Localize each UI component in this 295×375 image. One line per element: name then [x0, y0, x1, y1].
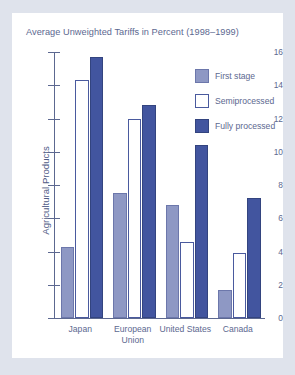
- bar: [247, 198, 261, 318]
- chart-legend: First stageSemiprocessedFully processed: [195, 69, 281, 144]
- bar: [233, 253, 247, 318]
- bar: [195, 145, 209, 318]
- bar: [61, 247, 75, 318]
- y-axis-label: Agricultural Products: [40, 111, 51, 271]
- x-axis-category-label: Canada: [208, 324, 269, 335]
- x-axis-category-label: EuropeanUnion: [103, 324, 164, 345]
- bar: [113, 193, 127, 318]
- x-axis-line: [54, 318, 265, 319]
- x-axis-category-label-line: Union: [103, 335, 164, 346]
- x-axis-category-label-line: United States: [155, 324, 216, 335]
- legend-label: Fully processed: [215, 121, 275, 131]
- bar: [128, 119, 142, 319]
- legend-label: First stage: [215, 71, 255, 81]
- bar: [166, 205, 180, 318]
- chart-plot: Agricultural Products 0246810121416 Japa…: [12, 13, 283, 358]
- bar: [142, 105, 156, 318]
- bar: [90, 57, 104, 318]
- y-axis-tick-inner: [55, 318, 60, 319]
- figure-card: Average Unweighted Tariffs in Percent (1…: [12, 13, 283, 358]
- x-axis-category-label-line: Canada: [208, 324, 269, 335]
- legend-swatch-semi: [195, 94, 209, 108]
- x-axis-category-label-line: Japan: [50, 324, 111, 335]
- legend-item: Semiprocessed: [195, 94, 281, 119]
- x-axis-category-label: United States: [155, 324, 216, 335]
- x-axis-category-label-line: European: [103, 324, 164, 335]
- legend-label: Semiprocessed: [215, 96, 274, 106]
- x-axis-category-label: Japan: [50, 324, 111, 335]
- bar: [180, 242, 194, 318]
- y-axis-label-container: Agricultural Products: [25, 53, 39, 317]
- legend-item: First stage: [195, 69, 281, 94]
- y-axis-tick: [48, 318, 54, 319]
- bar: [75, 80, 89, 318]
- legend-swatch-fully: [195, 119, 209, 133]
- legend-item: Fully processed: [195, 119, 281, 144]
- legend-swatch-first: [195, 69, 209, 83]
- bar: [218, 290, 232, 318]
